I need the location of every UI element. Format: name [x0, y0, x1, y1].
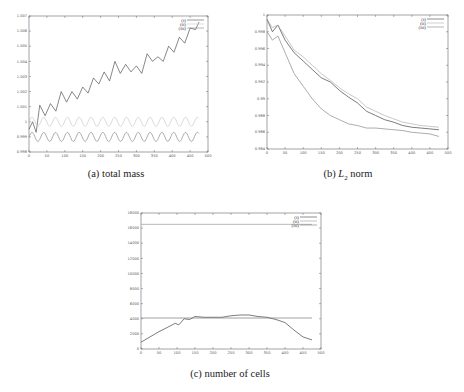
x-tick-label: 250: [354, 151, 362, 155]
y-tick-label: 1: [25, 120, 27, 124]
y-tick-label: 4000: [130, 317, 140, 321]
y-tick-label: 0.988: [255, 114, 266, 118]
x-tick-label: 400: [408, 151, 416, 155]
x-tick-label: 300: [133, 154, 141, 158]
legend-label: (iii): [179, 26, 187, 31]
axes-frame: [29, 16, 208, 152]
x-tick-label: 250: [115, 154, 123, 158]
x-tick-label: 400: [282, 351, 290, 355]
x-tick-label: 100: [61, 154, 69, 158]
x-tick-label: 450: [300, 351, 308, 355]
y-tick-label: 0.998: [255, 30, 266, 34]
legend-label: (iii): [419, 25, 427, 30]
chart-number-of-cells: 0501001502002503003504004505000200040006…: [0, 200, 464, 392]
x-tick-label: 0: [140, 351, 143, 355]
y-tick-label: 0.992: [255, 80, 265, 84]
chart-l2-norm: 0501001502002503003504004505000.9840.986…: [232, 0, 464, 190]
x-tick-label: 150: [192, 351, 200, 355]
x-tick-label: 200: [210, 351, 218, 355]
y-tick-label: 1.002: [17, 90, 27, 94]
y-tick-label: 0.986: [255, 130, 266, 134]
y-tick-label: 12000: [128, 257, 140, 261]
caption-number-of-cells: (c) number of cells: [110, 368, 350, 379]
series-line: [29, 117, 199, 126]
plot-area-total-mass: 0501001502002503003504004505000.9980.999…: [0, 0, 232, 190]
x-tick-label: 50: [45, 154, 50, 158]
plot-area-l2-norm: 0501001502002503003504004505000.9840.986…: [232, 0, 464, 190]
y-tick-label: 8000: [130, 287, 140, 291]
y-tick-label: 0.99: [257, 97, 266, 101]
axes-frame: [141, 213, 321, 349]
x-tick-label: 400: [169, 154, 177, 158]
x-tick-label: 350: [390, 151, 398, 155]
plot-area-number-of-cells: 0501001502002503003504004505000200040006…: [0, 200, 464, 392]
y-tick-label: 1.006: [17, 29, 28, 33]
y-tick-label: 0.994: [255, 63, 266, 67]
series-line: [29, 22, 199, 132]
x-tick-label: 200: [336, 151, 344, 155]
x-tick-label: 100: [300, 151, 308, 155]
y-tick-label: 2000: [130, 332, 140, 336]
series-line: [267, 19, 439, 127]
x-tick-label: 150: [318, 151, 326, 155]
y-tick-label: 0.984: [255, 147, 266, 151]
x-tick-label: 350: [151, 154, 159, 158]
y-tick-label: 1.003: [17, 75, 27, 79]
y-tick-label: 6000: [130, 302, 140, 306]
x-tick-label: 100: [174, 351, 182, 355]
x-tick-label: 300: [246, 351, 254, 355]
x-tick-label: 450: [187, 154, 195, 158]
y-tick-label: 0.999: [17, 135, 28, 139]
caption-l2-norm: (b) L2 norm: [232, 168, 464, 182]
caption-total-mass: (a) total mass: [0, 168, 232, 179]
y-tick-label: 1.005: [17, 44, 27, 48]
x-tick-label: 500: [318, 351, 326, 355]
x-tick-label: 200: [97, 154, 105, 158]
x-tick-label: 500: [445, 151, 453, 155]
legend-label: (iii): [292, 223, 300, 228]
y-tick-label: 1: [263, 13, 265, 17]
y-tick-label: 1.004: [17, 60, 28, 64]
series-line: [29, 132, 199, 141]
series-line: [267, 19, 439, 130]
x-tick-label: 0: [28, 154, 31, 158]
y-tick-label: 1.007: [17, 14, 27, 18]
chart-total-mass: 0501001502002503003504004505000.9980.999…: [0, 0, 232, 190]
x-tick-label: 350: [264, 351, 272, 355]
x-tick-label: 0: [266, 151, 269, 155]
y-tick-label: 10000: [128, 272, 140, 276]
x-tick-label: 50: [157, 351, 162, 355]
series-line: [141, 315, 312, 342]
y-tick-label: 14000: [128, 241, 140, 245]
y-tick-label: 0.996: [255, 47, 266, 51]
caption-suffix: norm: [348, 168, 373, 179]
caption-prefix: (b): [323, 168, 338, 179]
y-tick-label: 18000: [128, 211, 140, 215]
y-tick-label: 16000: [128, 226, 140, 230]
y-tick-label: 0.998: [17, 150, 28, 154]
y-tick-label: 1.001: [17, 105, 27, 109]
x-tick-label: 450: [426, 151, 434, 155]
x-tick-label: 250: [228, 351, 236, 355]
x-tick-label: 150: [79, 154, 87, 158]
x-tick-label: 300: [372, 151, 380, 155]
x-tick-label: 500: [205, 154, 213, 158]
axes-frame: [267, 15, 448, 149]
x-tick-label: 50: [283, 151, 288, 155]
